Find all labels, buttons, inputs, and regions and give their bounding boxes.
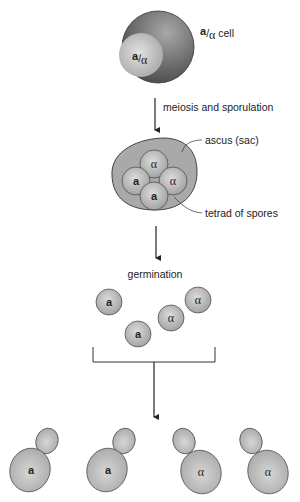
svg-text:a: a xyxy=(133,175,140,187)
budding-cell: a xyxy=(4,425,62,497)
free-spore: a xyxy=(125,321,151,347)
diploid-cell-label: a/α cell xyxy=(200,25,234,42)
meiosis-label: meiosis and sporulation xyxy=(163,101,273,113)
svg-text:α: α xyxy=(170,174,177,188)
ascus: α a α a xyxy=(112,138,197,210)
svg-text:α: α xyxy=(195,293,202,307)
svg-text:α: α xyxy=(168,311,175,325)
budding-cell: α xyxy=(236,425,294,499)
budding-cell: a xyxy=(81,425,139,497)
svg-text:a: a xyxy=(28,464,35,476)
ascus-label: ascus (sac) xyxy=(205,134,259,146)
bracket xyxy=(93,347,215,362)
svg-text:a: a xyxy=(106,296,113,308)
budding-cell: α xyxy=(169,425,227,499)
svg-text:α: α xyxy=(265,465,272,479)
ascus-spore: a xyxy=(140,182,168,210)
svg-text:a: a xyxy=(105,464,112,476)
tetrad-label: tetrad of spores xyxy=(205,207,278,219)
diploid-cell: a/α xyxy=(119,11,194,83)
svg-text:a: a xyxy=(151,190,158,202)
germination-label: germination xyxy=(128,268,183,280)
free-spore: α xyxy=(158,305,184,331)
yeast-life-cycle-diagram: a/α a/α cell meiosis and sporulation α a… xyxy=(0,0,300,502)
svg-text:α: α xyxy=(198,465,205,479)
svg-text:a: a xyxy=(135,328,142,340)
svg-text:α: α xyxy=(151,157,158,171)
free-spore: α xyxy=(185,287,211,313)
free-spore: a xyxy=(96,289,122,315)
